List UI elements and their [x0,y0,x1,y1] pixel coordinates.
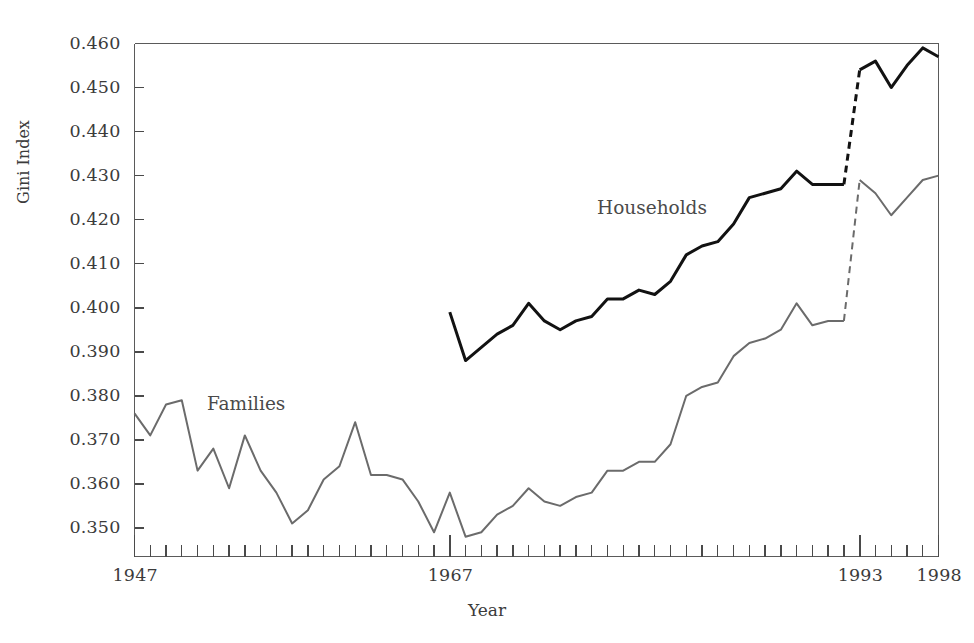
x-tick-label: 1967 [428,565,473,585]
series-line-families-main [135,303,844,536]
y-tick-label: 0.410 [1,253,121,273]
x-axis-title: Year [0,600,974,620]
series-lines [135,48,939,537]
series-label-families: Families [207,393,285,414]
x-tick-label: 1998 [917,565,962,585]
series-label-households: Households [597,197,707,218]
gini-index-chart: 0.3500.3600.3700.3800.3900.4000.4100.420… [0,0,974,643]
x-tick-label: 1947 [113,565,158,585]
series-line-households-post [860,48,939,88]
y-tick-label: 0.360 [1,473,121,493]
y-axis-ticks [135,88,144,528]
y-tick-label: 0.460 [1,33,121,53]
y-tick-label: 0.400 [1,297,121,317]
x-axis-ticks [135,535,939,557]
y-tick-label: 0.350 [1,517,121,537]
series-line-households-break [844,70,860,184]
series-line-families-post [860,176,939,216]
y-tick-label: 0.380 [1,385,121,405]
y-tick-label: 0.390 [1,341,121,361]
plot-frame [135,44,939,557]
y-tick-label: 0.370 [1,429,121,449]
x-tick-label: 1993 [838,565,883,585]
y-axis-title: Gini Index [14,92,33,232]
chart-canvas [0,0,974,643]
series-line-families-break [844,180,860,321]
